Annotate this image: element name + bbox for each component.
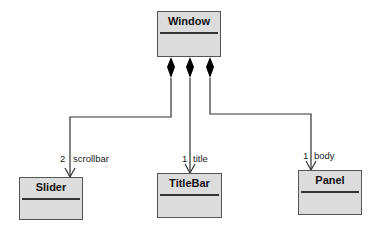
class-divider [160, 194, 219, 196]
role-label: body [314, 150, 335, 161]
class-divider [22, 198, 80, 200]
multiplicity-label: 2 [60, 153, 65, 164]
class-divider [301, 191, 359, 193]
class-box-slider[interactable]: Slider [19, 177, 83, 220]
role-label: scrollbar [73, 153, 109, 164]
class-name: Panel [299, 174, 361, 186]
class-box-window[interactable]: Window [157, 11, 221, 57]
class-box-panel[interactable]: Panel [298, 170, 362, 215]
class-divider [160, 32, 218, 34]
role-label: title [193, 153, 208, 164]
class-name: TitleBar [158, 177, 221, 189]
association-line-body [210, 78, 311, 169]
class-name: Window [158, 15, 220, 27]
uml-diagram: Window Slider TitleBar Panel 2 scrollbar… [0, 0, 381, 233]
composition-diamond-icon [167, 57, 175, 78]
multiplicity-label: 1 [182, 153, 187, 164]
class-box-titlebar[interactable]: TitleBar [157, 173, 222, 218]
composition-diamond-icon [206, 57, 214, 78]
class-name: Slider [20, 181, 82, 193]
composition-diamond-icon [186, 57, 194, 78]
multiplicity-label: 1 [303, 150, 308, 161]
